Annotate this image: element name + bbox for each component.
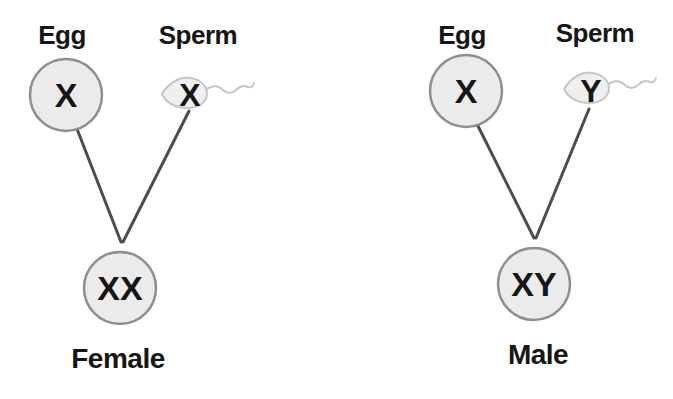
egg-chromosome: X — [55, 76, 78, 114]
sex-determination-diagram: Egg Sperm X X XX Female Egg Sperm X — [0, 0, 673, 399]
sperm-to-zygote-line — [123, 111, 189, 242]
cross-male: Egg Sperm X Y XY Male — [430, 18, 656, 370]
zygote-chromosomes: XY — [511, 265, 557, 303]
sperm-cell-icon: X — [162, 77, 254, 113]
egg-chromosome: X — [455, 72, 478, 110]
cross-female: Egg Sperm X X XX Female — [30, 20, 254, 374]
sperm-tail-icon — [205, 83, 254, 93]
egg-label: Egg — [38, 20, 86, 50]
sperm-cell-icon: Y — [564, 73, 656, 109]
sperm-to-zygote-line — [536, 109, 589, 238]
zygote-chromosomes: XX — [97, 269, 143, 307]
sex-determination-figure: Egg Sperm X X XX Female Egg Sperm X — [0, 0, 673, 399]
egg-label: Egg — [438, 20, 486, 50]
sperm-chromosome: X — [179, 77, 201, 113]
sperm-label: Sperm — [556, 18, 634, 48]
egg-to-zygote-line — [477, 124, 534, 238]
offspring-sex-label: Female — [71, 343, 165, 374]
offspring-sex-label: Male — [508, 339, 568, 370]
sperm-label: Sperm — [159, 20, 237, 50]
sperm-tail-icon — [607, 78, 656, 88]
egg-to-zygote-line — [77, 129, 121, 242]
sperm-chromosome: Y — [580, 73, 601, 109]
